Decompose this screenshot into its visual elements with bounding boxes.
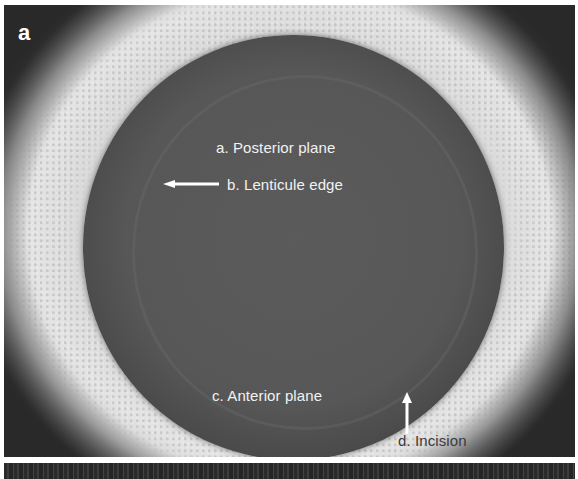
posterior-plane-ring xyxy=(132,75,478,430)
label-lenticule-edge: b. Lenticule edge xyxy=(227,176,343,193)
panel-letter: a xyxy=(18,20,30,46)
next-panel-strip xyxy=(4,463,575,479)
arrow-left-icon xyxy=(163,180,219,188)
arrow-up-icon xyxy=(402,392,412,434)
label-posterior-plane: a. Posterior plane xyxy=(216,139,335,156)
label-incision: d. Incision xyxy=(398,432,467,449)
label-anterior-plane: c. Anterior plane xyxy=(212,387,322,404)
